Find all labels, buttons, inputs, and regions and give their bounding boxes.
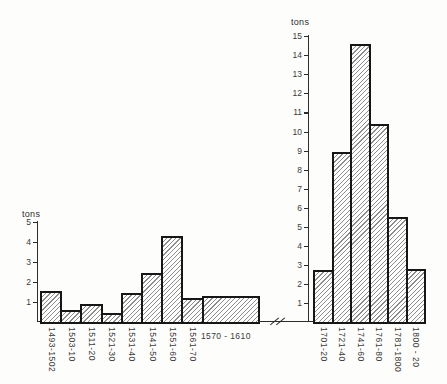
x-tick-label: 1781-1800: [393, 327, 402, 372]
y-tick: [304, 208, 308, 209]
connector-line: [258, 321, 308, 322]
x-tick-label: 1561-70: [188, 327, 197, 362]
y-tick: [33, 242, 37, 243]
x-tick-label: 1503-10: [67, 327, 76, 362]
y-tick: [304, 227, 308, 228]
bar: [350, 44, 371, 324]
bar: [369, 124, 390, 324]
y-tick-label: 4: [17, 238, 31, 247]
x-tick-label: 1701-20: [319, 327, 328, 362]
bar: [406, 269, 427, 324]
y-tick: [304, 112, 308, 113]
y-tick-label: 13: [288, 70, 302, 79]
y-tick-label: 3: [17, 258, 31, 267]
y-tick: [304, 93, 308, 94]
y-tick-label: 12: [288, 89, 302, 98]
y-tick: [304, 303, 308, 304]
y-tick-label: 14: [288, 51, 302, 60]
y-tick: [33, 262, 37, 263]
bar: [141, 273, 163, 324]
x-tick-label: 1551-60: [168, 327, 177, 362]
x-tick-label: 1721-40: [337, 327, 346, 362]
y-tick-label: 1: [288, 299, 302, 308]
bar: [387, 217, 408, 324]
y-tick: [304, 246, 308, 247]
bar: [181, 298, 203, 324]
y-tick: [304, 265, 308, 266]
bar: [161, 236, 183, 324]
bar: [60, 310, 82, 324]
y-tick-label: 8: [288, 166, 302, 175]
y-tick-label: 3: [288, 261, 302, 270]
bar: [332, 152, 353, 324]
x-tick-label: 1800 - 20: [411, 327, 420, 367]
y-tick: [304, 151, 308, 152]
bar: [202, 296, 261, 324]
bar: [40, 291, 62, 324]
y-axis: [308, 35, 309, 322]
x-tick-label: 1761-80: [374, 327, 383, 362]
y-tick-label: 11: [288, 108, 302, 117]
y-tick-label: 6: [288, 204, 302, 213]
x-tick-label: 1531-40: [127, 327, 136, 362]
y-tick-label: 2: [288, 280, 302, 289]
y-tick: [304, 132, 308, 133]
y-tick-label: 15: [288, 32, 302, 41]
y-tick-label: 10: [288, 128, 302, 137]
y-tick-label: 5: [288, 223, 302, 232]
y-tick: [33, 222, 37, 223]
y-tick-label: 4: [288, 242, 302, 251]
y-tick: [304, 284, 308, 285]
bar: [80, 304, 102, 324]
x-tick-label: 1570 - 1610: [201, 331, 251, 341]
bar: [101, 313, 123, 324]
y-tick: [304, 189, 308, 190]
y-tick: [33, 302, 37, 303]
y-tick: [33, 282, 37, 283]
y-tick-label: 7: [288, 185, 302, 194]
x-tick-label: 1521-30: [107, 327, 116, 362]
y-tick-label: 1: [17, 298, 31, 307]
x-tick-label: 1493-1502: [47, 327, 56, 372]
y-tick: [304, 36, 308, 37]
figure: tons tons 123451493-15021503-101511-2015…: [0, 0, 447, 384]
x-tick-label: 1511-20: [87, 327, 96, 361]
right-y-axis-title: tons: [291, 17, 309, 27]
x-tick-label: 1741-60: [356, 327, 365, 362]
bar: [313, 270, 334, 324]
y-tick-label: 2: [17, 278, 31, 287]
y-axis: [37, 221, 38, 322]
y-tick: [304, 55, 308, 56]
bar: [121, 293, 143, 324]
y-tick-label: 9: [288, 147, 302, 156]
x-tick-label: 1541-50: [148, 327, 157, 362]
y-tick: [304, 74, 308, 75]
y-tick-label: 5: [17, 218, 31, 227]
y-tick: [304, 170, 308, 171]
